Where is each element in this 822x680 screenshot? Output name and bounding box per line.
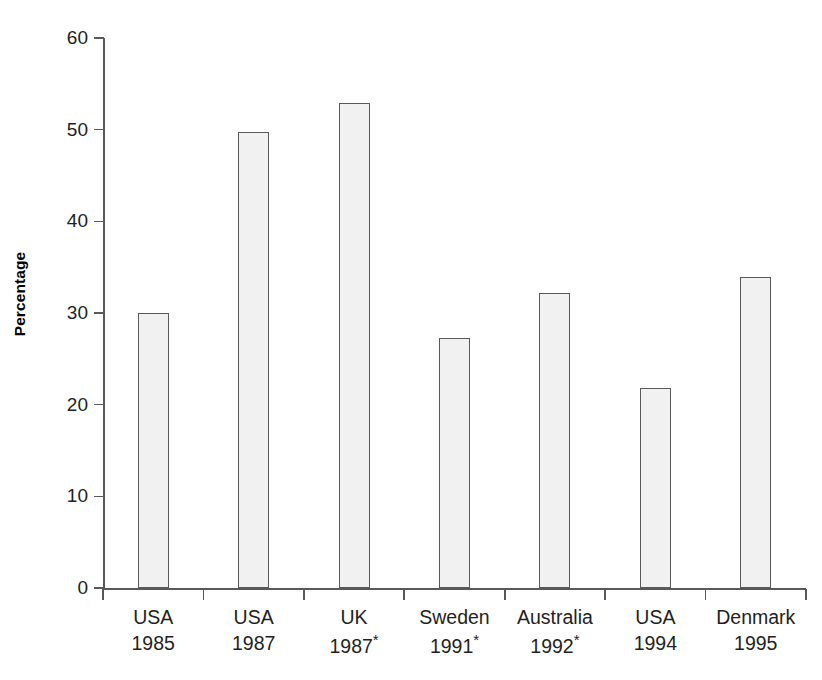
x-axis-tick xyxy=(203,589,205,600)
bar xyxy=(238,132,269,588)
y-axis-tick xyxy=(94,404,104,406)
bar xyxy=(138,313,169,588)
bar xyxy=(539,293,570,588)
plot-area xyxy=(103,38,806,588)
category-country: USA xyxy=(203,604,303,630)
x-axis-category-label: Australia1992* xyxy=(505,604,605,659)
x-axis-category-label: USA1987 xyxy=(203,604,303,657)
x-axis-category-label: USA1994 xyxy=(605,604,705,657)
y-axis-tick-label: 30 xyxy=(32,303,88,322)
x-axis-category-labels: USA1985USA1987UK1987*Sweden1991*Australi… xyxy=(103,604,806,666)
category-year: 1987* xyxy=(304,630,404,659)
x-axis-line xyxy=(103,588,806,590)
category-year: 1991* xyxy=(404,630,504,659)
footnote-asterisk: * xyxy=(373,631,379,648)
category-country: Sweden xyxy=(404,604,504,630)
x-axis-tick xyxy=(805,589,807,600)
x-axis-tick xyxy=(705,589,707,600)
category-year: 1992* xyxy=(505,630,605,659)
category-year: 1995 xyxy=(706,630,806,656)
category-country: USA xyxy=(605,604,705,630)
category-country: UK xyxy=(304,604,404,630)
x-axis-category-label: Sweden1991* xyxy=(404,604,504,659)
bar xyxy=(740,277,771,588)
y-axis-tick xyxy=(94,312,104,314)
category-country: Denmark xyxy=(706,604,806,630)
x-axis-tick xyxy=(604,589,606,600)
y-axis-tick xyxy=(94,129,104,131)
category-year: 1994 xyxy=(605,630,705,656)
x-axis-category-label: USA1985 xyxy=(103,604,203,657)
y-axis-tick-labels: 0102030405060 xyxy=(26,0,88,680)
category-country: Australia xyxy=(505,604,605,630)
footnote-asterisk: * xyxy=(473,631,479,648)
footnote-asterisk: * xyxy=(574,631,580,648)
bar xyxy=(339,103,370,588)
y-axis-tick-label: 20 xyxy=(32,395,88,414)
category-year: 1987 xyxy=(203,630,303,656)
y-axis-tick-label: 60 xyxy=(32,28,88,47)
y-axis-tick xyxy=(94,496,104,498)
x-axis-tick xyxy=(504,589,506,600)
category-year: 1985 xyxy=(103,630,203,656)
y-axis-tick xyxy=(94,221,104,223)
y-axis-tick xyxy=(94,37,104,39)
x-axis-category-label: UK1987* xyxy=(304,604,404,659)
y-axis-tick-label: 50 xyxy=(32,120,88,139)
category-country: USA xyxy=(103,604,203,630)
y-axis-tick-label: 10 xyxy=(32,486,88,505)
y-axis-tick-label: 40 xyxy=(32,211,88,230)
x-axis-tick xyxy=(303,589,305,600)
x-axis-tick xyxy=(403,589,405,600)
x-axis-tick xyxy=(102,589,104,600)
bar xyxy=(439,338,470,588)
bar xyxy=(640,388,671,588)
bar-chart: Percentage 0102030405060 USA1985USA1987U… xyxy=(0,0,822,680)
x-axis-category-label: Denmark1995 xyxy=(706,604,806,657)
y-axis-tick-label: 0 xyxy=(32,578,88,597)
